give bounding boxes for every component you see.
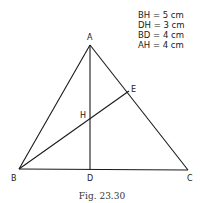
segment-ab — [19, 45, 90, 169]
segment-bc — [19, 169, 188, 170]
label-b: B — [11, 174, 17, 183]
given-ah: AH = 4 cm — [138, 40, 184, 50]
label-h: H — [80, 111, 86, 120]
label-c: C — [187, 174, 193, 183]
geometry-diagram: A B C D E H BH = 5 cm DH = 3 cm BD = 4 c… — [0, 0, 200, 203]
label-d: D — [87, 174, 93, 183]
label-a: A — [87, 33, 93, 42]
segment-be — [19, 91, 129, 169]
segment-ac — [90, 45, 188, 170]
label-e: E — [131, 85, 136, 94]
given-bh: BH = 5 cm — [138, 10, 184, 20]
given-bd: BD = 4 cm — [138, 30, 184, 40]
figure-caption: Fig. 23.30 — [79, 191, 126, 201]
given-dh: DH = 3 cm — [138, 20, 185, 30]
